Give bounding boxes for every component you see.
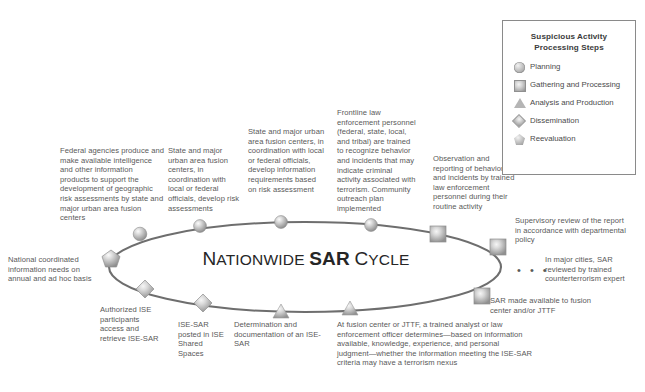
diagram-canvas: NATIONWIDE SAR CYCLE • • • Federal agenc… [0,0,645,392]
triangle-marker-icon [512,98,529,109]
legend-panel: Suspicious Activity Processing Steps Pla… [502,20,636,175]
callout-national-needs: National coordinated information needs o… [8,255,104,284]
legend-title-line2: Processing Steps [513,43,625,54]
marker-diamond-dissemination-1 [194,294,212,312]
legend-title-line1: Suspicious Activity [513,32,625,43]
callout-state-risk-assessments: State and major urban area fusion center… [168,146,242,213]
callout-at-fusion-center: At fusion center or JTTF, a trained anal… [337,320,533,368]
marker-circle-planning-3 [275,216,288,229]
marker-circle-planning-4 [365,219,378,232]
legend-item-analysis-and-production: Analysis and Production [512,98,635,109]
callout-determination-documentation: Determination and documentation of an IS… [234,320,322,349]
pentagon-marker-icon [512,134,529,145]
callout-federal-agencies: Federal agencies produce and make availa… [60,146,164,223]
title-sar: SAR [309,248,350,269]
legend-item-gathering-and-processing: Gathering and Processing [512,80,635,91]
legend-item-label: Planning [529,62,560,72]
callout-frontline-personnel: Frontline law enforcement personnel (fed… [337,108,417,214]
callout-ise-sar-posted: ISE-SAR posted in ISE Shared Spaces [178,320,226,358]
marker-triangle-analysis-1 [342,301,358,315]
callout-supervisory-review: Supervisory review of the report in acco… [515,216,631,245]
legend-item-dissemination: Dissemination [512,116,635,127]
legend-item-label: Analysis and Production [529,98,614,108]
callout-major-cities: In major cities, SAR reviewed by trained… [545,255,633,284]
legend-title: Suspicious Activity Processing Steps [513,32,625,53]
callout-state-info-requirements: State and major urban area fusion center… [248,127,326,194]
legend-item-label: Reevaluation [529,134,576,144]
square-marker-icon [512,80,529,91]
title-cycle: CYCLE [354,251,409,268]
circle-marker-icon [512,62,529,73]
legend-item-label: Gathering and Processing [529,80,620,90]
title-nationwide: NATIONWIDE [202,251,304,268]
marker-square-gathering-2 [490,239,506,255]
marker-circle-planning-2 [194,220,207,233]
callout-authorized-ise: Authorized ISE participants access and r… [100,305,164,343]
callout-sar-made-available: SAR made available to fusion center and/… [490,296,602,315]
marker-square-gathering-1 [430,226,446,242]
legend-item-planning: Planning [512,62,635,73]
legend-item-label: Dissemination [529,116,579,126]
legend-item-reevaluation: Reevaluation [512,134,635,145]
page-title: NATIONWIDE SAR CYCLE [198,248,414,270]
marker-circle-planning-1 [133,227,147,241]
marker-square-gathering-3 [474,288,490,304]
diamond-marker-icon [512,116,529,127]
marker-pentagon-reevaluation [102,250,120,267]
